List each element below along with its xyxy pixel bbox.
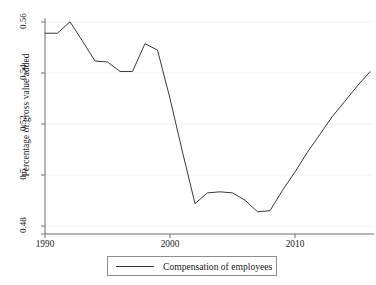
gridlines — [45, 22, 372, 226]
tick-marks — [41, 22, 295, 238]
data-line-compensation-of-employees — [45, 22, 370, 212]
axis-lines — [41, 18, 374, 234]
line-chart: Percentage of gross value added 0.480.50… — [0, 0, 376, 285]
legend-label-compensation-of-employees: Compensation of employees — [163, 261, 272, 272]
legend-line-swatch — [116, 266, 154, 267]
legend: Compensation of employees — [107, 256, 277, 276]
plot-area — [0, 0, 376, 285]
data-series-group — [45, 22, 370, 212]
